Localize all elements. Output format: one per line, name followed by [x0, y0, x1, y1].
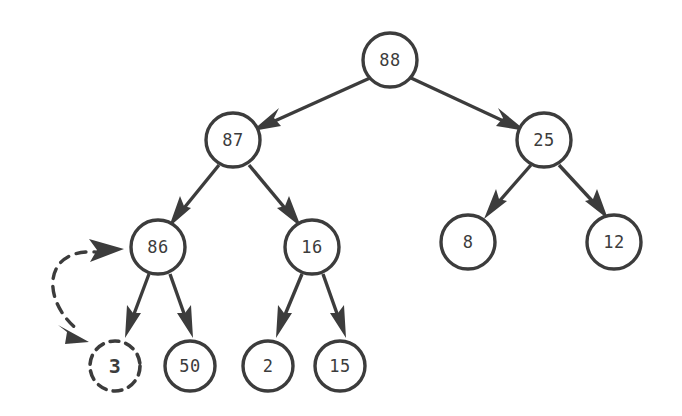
tree-node-label: 88 [379, 50, 400, 70]
tree-node-label: 16 [301, 237, 322, 257]
tree-node-label: 12 [603, 232, 624, 252]
tree-node-label: 50 [179, 356, 200, 376]
tree-node-16[interactable]: 16 [285, 220, 339, 274]
edge-86-3 [125, 274, 149, 338]
edge-88-25 [411, 78, 526, 131]
binary-tree-diagram: 88 87 25 86 16 8 12 3 [0, 0, 682, 416]
tree-node-8[interactable]: 8 [441, 215, 495, 269]
tree-node-label: 2 [263, 356, 274, 376]
edge-25-8 [484, 165, 531, 219]
tree-node-label: 15 [329, 356, 350, 376]
edge-16-2 [276, 274, 302, 338]
tree-node-label: 8 [463, 232, 474, 252]
edge-87-86 [169, 165, 219, 227]
tree-node-3-highlighted[interactable]: 3 [90, 341, 140, 391]
edge-88-87 [252, 78, 370, 131]
tree-node-label: 87 [222, 130, 243, 150]
tree-nodes: 88 87 25 86 16 8 12 3 [90, 33, 641, 391]
swap-arrow-86-3 [53, 239, 124, 344]
edge-87-16 [249, 165, 301, 227]
tree-node-label: 25 [533, 130, 554, 150]
edge-16-15 [323, 274, 346, 338]
tree-node-50[interactable]: 50 [165, 341, 215, 391]
edge-25-12 [559, 165, 608, 219]
tree-node-2[interactable]: 2 [243, 341, 293, 391]
tree-node-86[interactable]: 86 [131, 220, 185, 274]
tree-node-12[interactable]: 12 [587, 215, 641, 269]
tree-node-label: 3 [109, 354, 121, 378]
edge-86-50 [170, 274, 193, 338]
tree-node-25[interactable]: 25 [517, 113, 571, 167]
tree-node-87[interactable]: 87 [206, 113, 260, 167]
tree-node-15[interactable]: 15 [315, 341, 365, 391]
tree-node-label: 86 [147, 237, 168, 257]
tree-node-88[interactable]: 88 [363, 33, 417, 87]
